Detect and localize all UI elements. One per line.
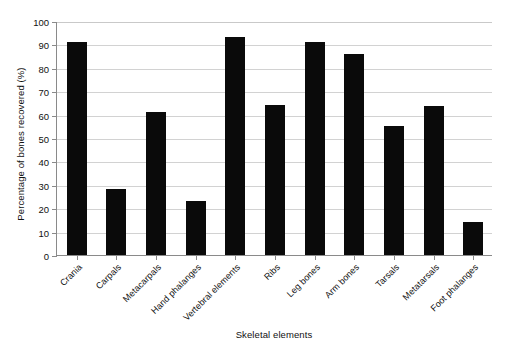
y-axis-tick (52, 186, 57, 187)
x-axis-tick (394, 255, 395, 260)
x-axis-tick (434, 255, 435, 260)
y-axis-tick-label: 30 (9, 180, 49, 191)
y-axis-tick-label: 90 (9, 40, 49, 51)
x-axis-tick (354, 255, 355, 260)
y-axis-tick (52, 45, 57, 46)
y-axis-tick-label: 50 (9, 134, 49, 145)
y-axis-tick (52, 139, 57, 140)
bar (424, 106, 444, 255)
bar (225, 37, 245, 255)
y-axis-tick (52, 162, 57, 163)
bar (265, 105, 285, 255)
gridline (57, 69, 492, 70)
gridline (57, 45, 492, 46)
x-axis-tick-label: Ribs (262, 262, 282, 282)
bar (384, 126, 404, 255)
bar (186, 201, 206, 255)
bar (106, 189, 126, 255)
x-axis-tick (196, 255, 197, 260)
y-axis-tick (52, 116, 57, 117)
y-axis-tick-label: 20 (9, 204, 49, 215)
y-axis-tick (52, 22, 57, 23)
x-axis-title: Skeletal elements (56, 329, 492, 340)
y-axis-tick (52, 209, 57, 210)
x-axis-tick (77, 255, 78, 260)
x-axis-tick (235, 255, 236, 260)
y-axis-tick-label: 60 (9, 110, 49, 121)
x-axis-tick (473, 255, 474, 260)
y-axis-tick-label: 40 (9, 157, 49, 168)
y-axis-tick-label: 70 (9, 87, 49, 98)
y-axis-tick (52, 256, 57, 257)
bar (146, 112, 166, 255)
plot-area: 0102030405060708090100CraniaCarpalsMetac… (56, 22, 492, 256)
x-axis-tick-label: Leg bones (285, 262, 322, 299)
x-axis-tick-label: Arm bones (323, 262, 361, 300)
x-axis-tick-label: Crania (58, 262, 84, 288)
x-axis-tick-label: Metacarpals (121, 262, 163, 304)
x-axis-tick (156, 255, 157, 260)
x-axis-tick (116, 255, 117, 260)
gridline (57, 22, 492, 23)
x-axis-tick-label: Tarsals (373, 262, 400, 289)
y-axis-tick-label: 100 (9, 17, 49, 28)
bar (463, 222, 483, 255)
gridline (57, 92, 492, 93)
y-axis-tick-label: 10 (9, 227, 49, 238)
y-axis-tick-label: 0 (9, 251, 49, 262)
x-axis-tick-label: Metatarsals (400, 262, 440, 302)
y-axis-tick (52, 69, 57, 70)
bar-chart: Percentage of bones recovered (%) 010203… (0, 0, 508, 353)
bar (305, 42, 325, 255)
y-axis-tick (52, 233, 57, 234)
bar (67, 42, 87, 255)
y-axis-tick-label: 80 (9, 63, 49, 74)
x-axis-tick-label: Carpals (94, 262, 123, 291)
y-axis-tick (52, 92, 57, 93)
x-axis-tick (315, 255, 316, 260)
bar (344, 54, 364, 255)
x-axis-tick (275, 255, 276, 260)
